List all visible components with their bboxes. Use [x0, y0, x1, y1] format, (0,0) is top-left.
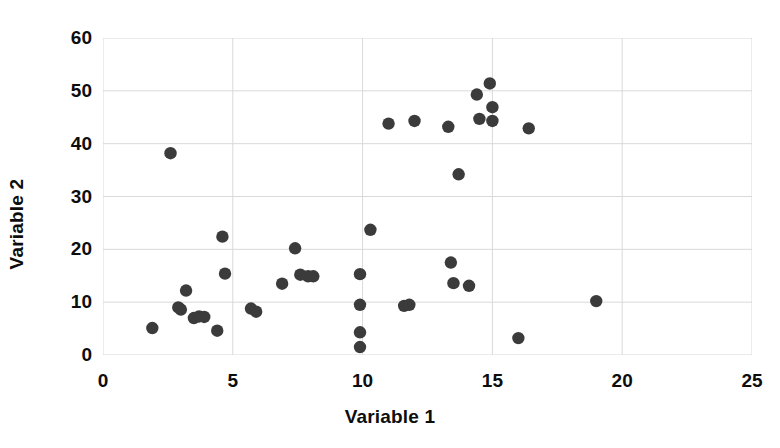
- data-point: [486, 101, 498, 113]
- data-point: [445, 256, 457, 268]
- y-tick-label-10: 10: [52, 291, 92, 313]
- data-point: [175, 303, 187, 315]
- data-point: [484, 77, 496, 89]
- data-point: [216, 230, 228, 242]
- data-point-layer: [146, 77, 602, 353]
- data-point: [452, 168, 464, 180]
- data-point: [382, 117, 394, 129]
- data-point: [471, 88, 483, 100]
- data-point: [180, 284, 192, 296]
- x-axis-title: Variable 1: [0, 406, 780, 428]
- data-point: [447, 277, 459, 289]
- data-point: [354, 299, 366, 311]
- data-point: [289, 242, 301, 254]
- scatter-chart-figure: Variable 2 Variable 1 60 50 40 30 20 10 …: [0, 0, 780, 448]
- data-point: [403, 299, 415, 311]
- data-point: [307, 270, 319, 282]
- x-tick-label-10: 10: [343, 370, 383, 392]
- x-tick-label-15: 15: [472, 370, 512, 392]
- data-point: [146, 322, 158, 334]
- data-point: [442, 121, 454, 133]
- data-point: [523, 122, 535, 134]
- data-point: [512, 332, 524, 344]
- data-point: [590, 295, 602, 307]
- x-tick-label-0: 0: [83, 370, 123, 392]
- y-tick-label-0: 0: [52, 344, 92, 366]
- data-point: [408, 115, 420, 127]
- x-tick-label-5: 5: [213, 370, 253, 392]
- data-point: [364, 224, 376, 236]
- data-point: [354, 326, 366, 338]
- data-point: [486, 115, 498, 127]
- y-tick-label-30: 30: [52, 186, 92, 208]
- data-point: [250, 305, 262, 317]
- scatter-plot-canvas: [103, 38, 752, 355]
- x-tick-label-20: 20: [602, 370, 642, 392]
- data-point: [219, 267, 231, 279]
- data-point: [276, 277, 288, 289]
- y-tick-label-60: 60: [52, 27, 92, 49]
- data-point: [164, 147, 176, 159]
- y-axis-title: Variable 2: [0, 0, 34, 448]
- y-tick-label-40: 40: [52, 133, 92, 155]
- data-point: [198, 311, 210, 323]
- data-point: [211, 325, 223, 337]
- gridlines: [103, 38, 752, 355]
- x-tick-label-25: 25: [732, 370, 772, 392]
- y-tick-label-20: 20: [52, 238, 92, 260]
- data-point: [473, 113, 485, 125]
- data-point: [354, 341, 366, 353]
- data-point: [463, 280, 475, 292]
- y-tick-label-50: 50: [52, 80, 92, 102]
- plot-area: [103, 38, 752, 355]
- data-point: [354, 268, 366, 280]
